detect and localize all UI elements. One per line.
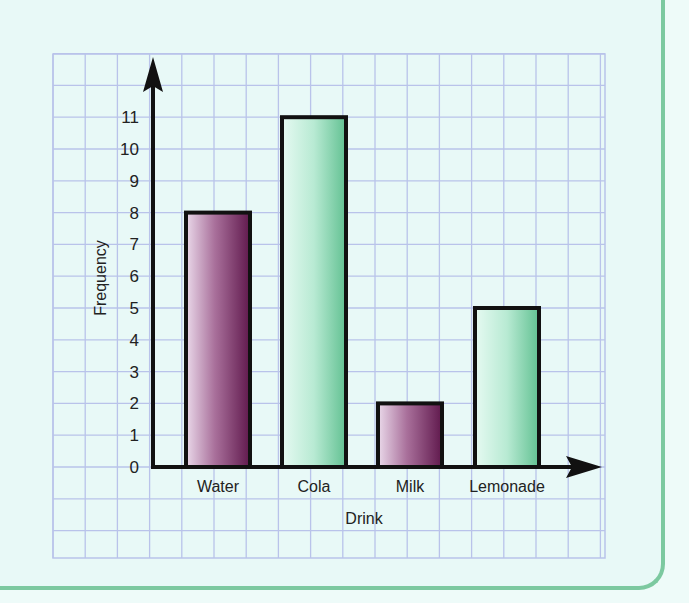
x-axis-label: Drink (345, 510, 383, 527)
y-tick-label: 10 (120, 140, 139, 159)
bar-cola (282, 117, 346, 467)
y-tick-label: 11 (121, 108, 139, 127)
y-tick-label: 3 (130, 363, 139, 382)
bar-water (186, 213, 250, 467)
x-category-label: Milk (396, 478, 425, 495)
y-tick-label: 9 (130, 172, 139, 191)
x-category-label: Lemonade (469, 478, 545, 495)
bar-chart: 01234567891011 WaterColaMilkLemonade Dri… (0, 0, 689, 603)
y-tick-label: 2 (130, 394, 139, 413)
x-category-labels: WaterColaMilkLemonade (197, 478, 545, 495)
bar-lemonade (475, 308, 539, 467)
y-tick-label: 0 (130, 458, 139, 477)
y-tick-label: 8 (130, 204, 139, 223)
y-tick-label: 7 (130, 235, 139, 254)
y-tick-labels: 01234567891011 (120, 108, 139, 477)
y-tick-label: 6 (130, 267, 139, 286)
x-category-label: Cola (298, 478, 331, 495)
bar-milk (378, 403, 442, 467)
y-tick-label: 1 (130, 426, 139, 445)
bars (186, 117, 539, 467)
y-tick-label: 4 (130, 331, 139, 350)
y-tick-label: 5 (130, 299, 139, 318)
y-axis-label: Frequency (92, 240, 109, 316)
x-category-label: Water (197, 478, 240, 495)
